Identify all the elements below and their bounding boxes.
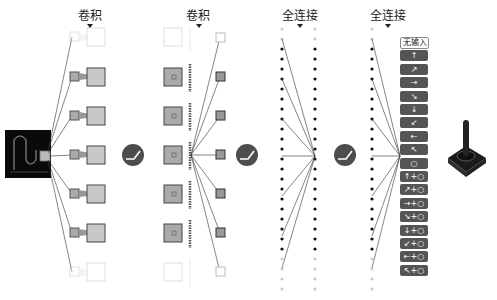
action-fire: ○ [400, 158, 428, 169]
conv1-label: 卷积 [60, 6, 120, 23]
action-arrow-down-left-fire: ↙+○ [400, 238, 428, 249]
joystick-icon [448, 120, 486, 177]
action-arrow-up-right-fire: ↗+○ [400, 184, 428, 195]
conv1-feature-maps [70, 28, 105, 281]
fc2-label: 全连接 [358, 6, 418, 23]
conv1-marker-icon [87, 24, 93, 28]
action-arrow-left-fire: ←+○ [400, 251, 428, 262]
action-arrow-down: ↓ [400, 104, 428, 115]
action-arrow-up: ↑ [400, 50, 428, 61]
action-arrow-left: ← [400, 131, 428, 142]
action-none: 无输入 [400, 37, 429, 49]
action-arrow-up-left: ↖ [400, 144, 428, 155]
action-arrow-right: → [400, 77, 428, 88]
fc2-marker-icon [385, 24, 391, 28]
conv2-label: 卷积 [168, 6, 228, 23]
fc1-label: 全连接 [270, 6, 330, 23]
input-connections [48, 37, 72, 272]
action-arrow-up-right: ↗ [400, 64, 428, 75]
fc2-neurons [370, 27, 400, 290]
relu-icon [236, 144, 258, 166]
fc1-marker-icon [297, 24, 303, 28]
action-arrow-up-fire: ↑+○ [400, 171, 428, 182]
relu-icon [334, 144, 356, 166]
action-arrow-right-fire: →+○ [400, 198, 428, 209]
action-arrow-down-fire: ↓+○ [400, 225, 428, 236]
conv2-feature-maps [164, 28, 225, 287]
dqn-architecture-diagram: 卷积 卷积 全连接 全连接 无输入↑↗→↘↓↙←↖○↑+○↗+○→+○↘+○↓+… [0, 0, 497, 300]
action-arrow-down-right: ↘ [400, 91, 428, 102]
input-frame [5, 130, 51, 178]
action-arrow-down-left: ↙ [400, 117, 428, 128]
conv2-marker-icon [196, 24, 202, 28]
action-arrow-down-right-fire: ↘+○ [400, 211, 428, 222]
relu-icon [122, 144, 144, 166]
fc1-neurons [280, 27, 316, 290]
action-arrow-up-left-fire: ↖+○ [400, 265, 428, 276]
